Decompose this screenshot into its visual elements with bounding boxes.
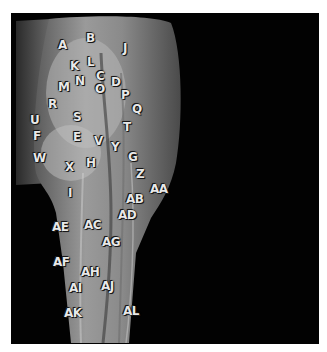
image-frame: ABJKLCNMDOPQRSUTFEVYWGXHZAAIABADAEACAGAF… [11,13,319,344]
label-b: B [86,32,95,44]
specimen-photo [11,13,319,344]
label-l: L [87,56,94,68]
label-d: D [111,76,120,88]
label-ab: AB [126,193,143,205]
label-z: Z [136,168,144,180]
label-aj: AJ [101,280,114,292]
label-v: V [94,135,103,147]
label-y: Y [111,141,119,153]
label-t: T [123,121,131,133]
label-u: U [30,114,39,126]
label-al: AL [123,305,139,317]
label-r: R [48,98,57,110]
label-e: E [73,131,81,143]
label-o: O [95,83,105,95]
label-s: S [73,111,81,123]
label-a: A [58,39,67,51]
label-ai: AI [69,282,82,294]
label-ae: AE [52,221,68,233]
label-ad: AD [118,209,136,221]
label-ak: AK [64,307,82,319]
label-f: F [33,130,41,142]
label-k: K [70,60,79,72]
label-i: I [68,187,72,199]
label-aa: AA [150,183,168,195]
label-ah: AH [81,266,99,278]
label-j: J [123,42,127,54]
label-x: X [65,161,74,173]
label-af: AF [53,256,69,268]
label-c: C [96,70,104,82]
label-w: W [33,152,46,164]
label-ag: AG [102,236,120,248]
label-h: H [86,157,96,169]
label-m: M [58,81,69,93]
label-ac: AC [84,219,101,231]
label-q: Q [132,103,142,115]
label-g: G [128,151,137,163]
label-p: P [121,89,129,101]
label-n: N [75,75,85,87]
